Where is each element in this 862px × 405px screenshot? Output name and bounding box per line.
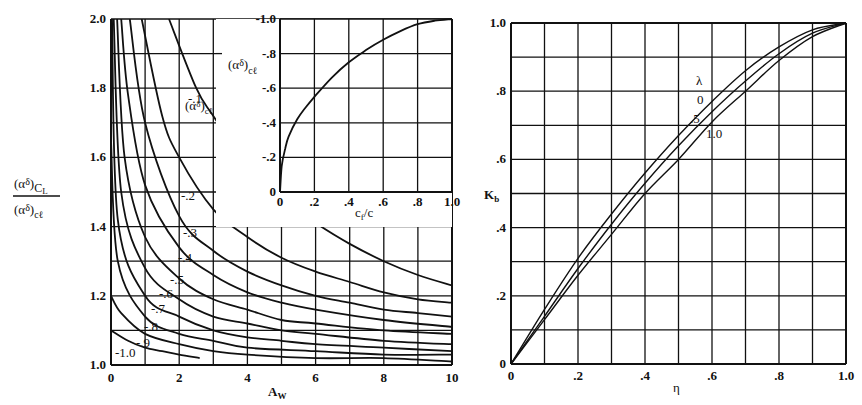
x-tick-label: 6 (312, 370, 319, 385)
left-ylabel-denominator: (αδ)cℓ (14, 202, 43, 220)
inset-x-tick: .8 (413, 194, 423, 209)
right-legend-title: λ (696, 73, 703, 88)
right-y-tick: .8 (496, 83, 506, 98)
right-x-tick: .4 (640, 368, 650, 383)
right-y-tick: 1.0 (490, 15, 506, 30)
right-chart: 0.2.4.6.81.00.2.4.6.81.0 (490, 15, 854, 383)
right-y-tick: 0 (500, 356, 507, 371)
right-y-tick: .2 (496, 288, 506, 303)
inset-x-tick: .2 (310, 194, 320, 209)
y-tick-label: 1.6 (90, 149, 107, 164)
figure: 02468101.01.21.41.61.82.0-.1-.2-.3-.4-.5… (0, 0, 862, 405)
curve-label: -.3 (183, 225, 197, 240)
y-tick-label: 2.0 (90, 11, 106, 26)
left-ylabel-numerator: (αδ)CL (14, 176, 48, 196)
curve-label: -.5 (170, 272, 184, 287)
inset-y-tick: 0 (270, 184, 277, 199)
x-tick-label: 8 (381, 370, 388, 385)
x-tick-label: 0 (108, 370, 115, 385)
right-x-tick: .8 (774, 368, 784, 383)
right-x-tick: .6 (707, 368, 717, 383)
curve-label: -.6 (159, 286, 174, 301)
right-xlabel: η (673, 380, 680, 395)
right-y-tick: .4 (496, 220, 506, 235)
right-ylabel: Kb (484, 187, 499, 204)
inset-x-tick: .4 (344, 194, 354, 209)
x-tick-label: 4 (244, 370, 251, 385)
x-tick-label: 2 (176, 370, 183, 385)
curve-label: -.4 (178, 250, 193, 265)
inset-y-tick: -.4 (262, 115, 277, 130)
left-xlabel: AW (268, 384, 286, 401)
inset-chart: 0.2.4.6.81.00-.2-.4-.6-.8-1.0 (216, 11, 460, 227)
curve-label: -.9 (136, 335, 150, 350)
curve-label: -.8 (144, 319, 158, 334)
inset-y-tick: -1.0 (255, 11, 276, 26)
curve-label: -.2 (181, 188, 195, 203)
right-y-tick: .6 (496, 151, 506, 166)
right-x-tick: 0 (508, 368, 515, 383)
legend-title: (αδ)cℓ (185, 98, 213, 116)
y-tick-label: 1.2 (90, 288, 106, 303)
right-legend-10: 1.0 (706, 126, 722, 141)
y-tick-label: 1.0 (90, 357, 106, 372)
right-x-tick: 1.0 (838, 368, 854, 383)
x-tick-label: 10 (446, 370, 459, 385)
right-x-tick: .2 (573, 368, 583, 383)
inset-y-tick: -.8 (262, 46, 277, 61)
right-legend-0: 0 (697, 92, 704, 107)
curve-label: -.7 (151, 301, 166, 316)
curve-label: -1.0 (115, 345, 136, 360)
inset-y-tick: -.6 (262, 80, 277, 95)
inset-x-tick: .6 (378, 194, 388, 209)
right-legend-5: .5 (690, 111, 700, 126)
inset-xlabel: cf/c (355, 205, 373, 222)
y-tick-label: 1.8 (90, 80, 107, 95)
inset-x-tick: 1.0 (444, 194, 460, 209)
inset-x-tick: 0 (277, 194, 284, 209)
inset-y-tick: -.2 (262, 149, 276, 164)
y-tick-label: 1.4 (90, 219, 107, 234)
